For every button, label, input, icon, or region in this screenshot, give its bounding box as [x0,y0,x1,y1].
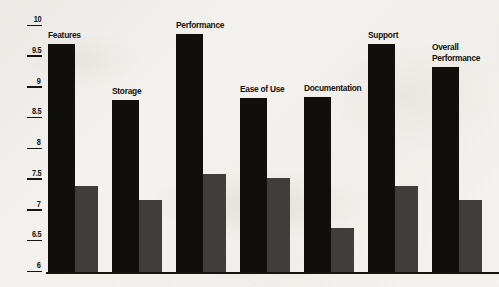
bar-group [304,26,360,272]
y-axis-tick-label: 9.5 [32,46,41,55]
y-axis-tick-label: 8.5 [32,107,41,116]
plot-area: FeaturesStoragePerformanceEase of UseDoc… [46,0,499,287]
y-axis-tick-label: 6.5 [32,230,41,239]
bar-secondary[interactable] [200,174,226,272]
bar-secondary[interactable] [264,178,290,272]
bar-primary[interactable] [112,100,139,272]
bar-primary[interactable] [304,97,331,272]
y-axis-tick-mark [27,117,42,119]
y-axis-tick-label: 10 [33,15,41,24]
bar-secondary[interactable] [328,228,354,272]
y-axis-tick-label: 7.5 [32,169,41,178]
y-axis-tick-label: 6 [37,261,41,270]
bar-primary[interactable] [432,67,459,272]
bar-secondary[interactable] [392,186,418,272]
y-axis-tick-mark [27,240,42,242]
bar-group [176,26,232,272]
bar-group [240,26,296,272]
bar-secondary[interactable] [456,200,482,272]
y-axis-tick-mark [27,148,42,150]
y-axis-tick-mark [27,25,42,27]
category-label: Performance [176,20,224,31]
y-axis-tick-mark [27,86,42,88]
category-label: Support [368,30,398,41]
y-axis-tick-mark [27,271,42,273]
y-axis-tick-label: 9 [37,77,41,86]
bar-secondary[interactable] [72,186,98,272]
y-axis-tick-mark [27,178,42,180]
y-axis-tick-mark [27,209,42,211]
bar-primary[interactable] [176,34,203,272]
bar-primary[interactable] [48,44,75,272]
category-label: Documentation [304,83,361,94]
bar-group [368,26,424,272]
y-axis: 109.598.587.576.56 [0,0,46,287]
bar-group [48,26,104,272]
y-axis-tick-mark [27,55,42,57]
bar-secondary[interactable] [136,200,162,272]
y-axis-tick-label: 7 [37,200,41,209]
category-label: Ease of Use [240,84,284,95]
category-label: Storage [112,86,141,97]
bar-chart: 109.598.587.576.56 FeaturesStoragePerfor… [0,0,499,287]
bar-primary[interactable] [240,98,267,272]
y-axis-tick-label: 8 [37,138,41,147]
category-label: Features [48,30,81,41]
category-label: Overall Performance [432,42,480,63]
bar-group [112,26,168,272]
x-axis-baseline [46,272,499,274]
bar-primary[interactable] [368,44,395,272]
